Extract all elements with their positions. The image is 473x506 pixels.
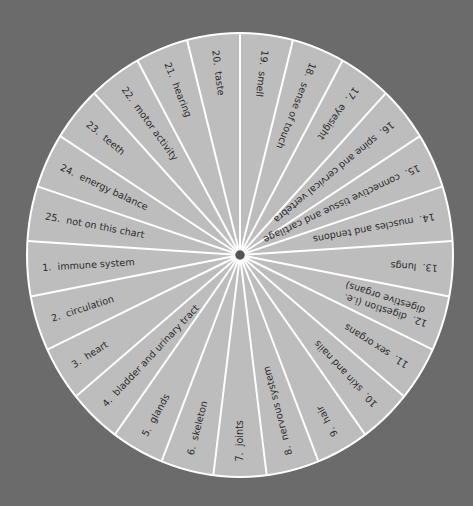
wheel-chart: 1. immune system2. circulation3. heart4.… bbox=[0, 0, 473, 506]
center-hub-dot bbox=[235, 250, 246, 261]
segment-label: 7. joints bbox=[234, 420, 245, 461]
segment-name: joints bbox=[234, 420, 245, 447]
segment-number: 7. bbox=[234, 446, 245, 461]
segment-number: 13. bbox=[416, 262, 438, 274]
segment-number: 1. bbox=[42, 261, 58, 273]
segment-7: 7. joints bbox=[234, 420, 245, 461]
body-systems-wheel: 1. immune system2. circulation3. heart4.… bbox=[0, 0, 473, 506]
segment-name: lungs bbox=[390, 260, 417, 273]
